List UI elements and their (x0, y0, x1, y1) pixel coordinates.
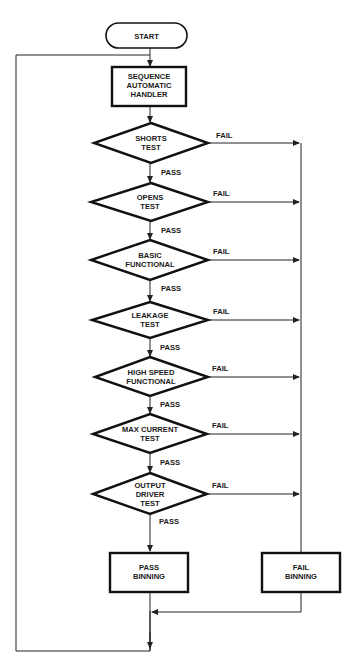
fail-label-leakage: FAIL (213, 307, 230, 316)
pass-binning-box: PASS BINNING (110, 553, 188, 592)
pass-label-maxcurrent: PASS (160, 458, 180, 467)
shorts-line-2: TEST (141, 143, 161, 152)
decision-leakage-test: LEAKAGE TEST (92, 302, 208, 338)
handler-line-2: AUTOMATIC (127, 81, 172, 90)
output-line-2: DRIVER (136, 490, 165, 499)
pass-label-opens: PASS (161, 226, 181, 235)
output-line-1: OUTPUT (134, 481, 166, 490)
fail-label-highspeed: FAIL (212, 364, 229, 373)
pass-label-basic: PASS (161, 284, 181, 293)
fail-label-basic: FAIL (213, 247, 230, 256)
highspeed-line-1: HIGH SPEED (128, 368, 175, 377)
shorts-line-1: SHORTS (135, 134, 167, 143)
output-line-3: TEST (140, 499, 160, 508)
fail-label-output: FAIL (212, 481, 229, 490)
handler-line-3: HANDLER (130, 90, 168, 99)
leakage-line-1: LEAKAGE (131, 311, 168, 320)
pass-label-leakage: PASS (160, 343, 180, 352)
decision-output-driver-test: OUTPUT DRIVER TEST (93, 473, 207, 514)
pass-binning-line-1: PASS (139, 563, 159, 572)
pass-binning-line-2: BINNING (133, 572, 165, 581)
fail-label-opens: FAIL (213, 189, 230, 198)
leakage-line-2: TEST (140, 320, 160, 329)
highspeed-line-2: FUNCTIONAL (126, 377, 176, 386)
fail-binning-box: FAIL BINNING (262, 553, 340, 592)
flowchart-diagram: START SEQUENCE AUTOMATIC HANDLER SHORTS … (0, 0, 356, 665)
decision-high-speed-functional: HIGH SPEED FUNCTIONAL (95, 357, 208, 396)
maxcurrent-line-2: TEST (140, 434, 160, 443)
decision-opens-test: OPENS TEST (91, 183, 208, 221)
maxcurrent-line-1: MAX CURRENT (122, 425, 178, 434)
basic-line-2: FUNCTIONAL (125, 260, 175, 269)
fail-binning-line-1: FAIL (293, 563, 310, 572)
decision-max-current-test: MAX CURRENT TEST (93, 414, 207, 453)
sequence-handler-box: SEQUENCE AUTOMATIC HANDLER (112, 67, 186, 106)
fail-label-maxcurrent: FAIL (212, 421, 229, 430)
pass-label-output: PASS (159, 517, 179, 526)
basic-line-1: BASIC (138, 251, 162, 260)
decision-shorts-test: SHORTS TEST (94, 123, 208, 163)
start-terminator: START (106, 23, 187, 48)
decision-basic-functional: BASIC FUNCTIONAL (91, 240, 208, 280)
fail-binning-exit (152, 592, 301, 612)
fail-binning-line-2: BINNING (285, 572, 317, 581)
pass-label-highspeed: PASS (160, 400, 180, 409)
opens-line-1: OPENS (137, 193, 164, 202)
fail-label-shorts: FAIL (216, 131, 233, 140)
pass-label-shorts: PASS (161, 168, 181, 177)
start-label: START (134, 32, 159, 41)
handler-line-1: SEQUENCE (128, 72, 171, 81)
opens-line-2: TEST (140, 202, 160, 211)
